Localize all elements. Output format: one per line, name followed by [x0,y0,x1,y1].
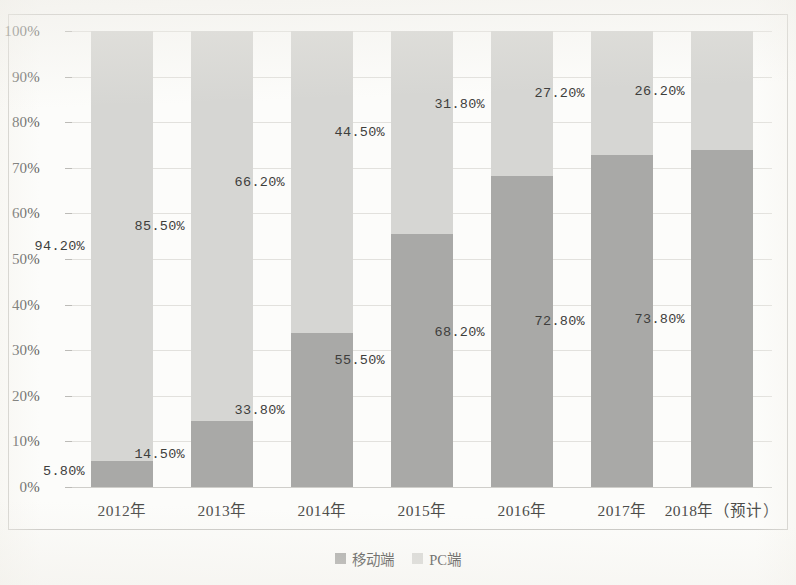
bar-segment-mobile[interactable] [91,461,153,487]
y-axis-tick-label: 90% [0,68,40,85]
legend-item-label: PC端 [429,548,461,569]
y-axis-tick-label: 60% [0,205,40,222]
gridline [72,487,772,488]
y-axis-tick-label: 10% [0,433,40,450]
legend-item[interactable]: 移动端 [335,548,394,569]
bar-segment-mobile[interactable] [191,421,253,487]
data-label-mobile: 73.80% [635,311,685,326]
bar-segment-pc[interactable] [391,31,453,234]
bar-segment-mobile[interactable] [391,234,453,487]
y-tick-mark [65,487,72,488]
data-label-mobile: 68.20% [435,324,485,339]
x-axis-tick-label: 2018年（预计） [665,498,780,520]
y-axis-tick-label: 40% [0,296,40,313]
data-label-mobile: 33.80% [235,402,285,417]
bar-stack[interactable] [291,31,353,487]
legend-swatch-mobile-icon [335,553,346,564]
y-axis-tick-label: 70% [0,159,40,176]
data-label-pc: 31.80% [435,96,485,111]
legend-item-label: 移动端 [352,548,394,569]
bar-segment-pc[interactable] [691,31,753,150]
x-axis-tick-label: 2013年 [198,498,247,520]
plot-area: 0%10%20%30%40%50%60%70%80%90%100% 5.80%9… [72,31,772,487]
data-label-mobile: 72.80% [535,314,585,329]
y-tick-mark [65,259,72,260]
y-axis-tick-label: 100% [0,23,40,40]
legend: 移动端PC端 [0,548,796,569]
legend-swatch-pc-icon [412,553,423,564]
bar-segment-mobile[interactable] [491,176,553,487]
x-axis-tick-label: 2014年 [298,498,347,520]
y-tick-mark [65,350,72,351]
y-tick-mark [65,168,72,169]
y-tick-mark [65,122,72,123]
data-label-pc: 94.20% [35,238,85,253]
bar-stack[interactable] [91,31,153,487]
y-tick-mark [65,396,72,397]
data-label-pc: 66.20% [235,174,285,189]
y-axis-tick-label: 0% [0,479,40,496]
y-axis-tick-label: 80% [0,114,40,131]
chart-page: 0%10%20%30%40%50%60%70%80%90%100% 5.80%9… [0,0,796,585]
bar-stack[interactable] [191,31,253,487]
bar-segment-pc[interactable] [291,31,353,333]
y-tick-mark [65,213,72,214]
bar-segment-pc[interactable] [191,31,253,421]
bar-segment-pc[interactable] [91,31,153,461]
data-label-pc: 27.20% [535,86,585,101]
legend-item[interactable]: PC端 [412,548,461,569]
data-label-pc: 26.20% [635,83,685,98]
y-tick-mark [65,31,72,32]
x-axis-tick-label: 2016年 [498,498,547,520]
data-label-pc: 44.50% [335,125,385,140]
data-label-mobile: 14.50% [135,446,185,461]
data-label-mobile: 55.50% [335,353,385,368]
bar-stack[interactable] [591,31,653,487]
bar-segment-mobile[interactable] [691,150,753,487]
bar-stack[interactable] [691,31,753,487]
y-tick-mark [65,305,72,306]
x-axis-tick-label: 2012年 [98,498,147,520]
x-axis-tick-label: 2017年 [598,498,647,520]
y-axis-tick-label: 20% [0,387,40,404]
bar-segment-pc[interactable] [491,31,553,176]
data-label-mobile: 5.80% [43,464,85,479]
data-label-pc: 85.50% [135,218,185,233]
x-axis-tick-label: 2015年 [398,498,447,520]
y-tick-mark [65,77,72,78]
y-axis-tick-label: 30% [0,342,40,359]
y-tick-mark [65,441,72,442]
